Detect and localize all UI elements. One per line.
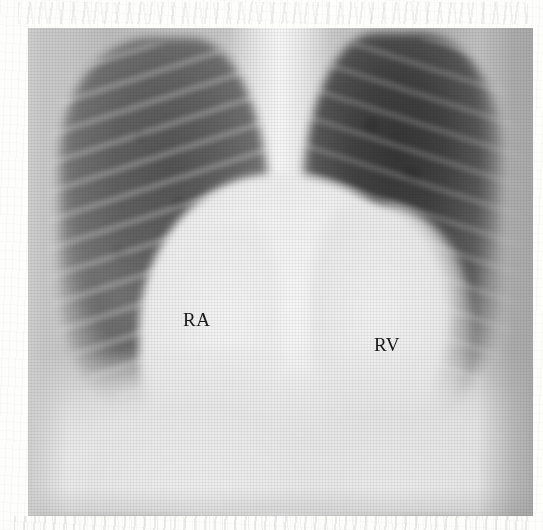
annotation-label-ra: RA <box>183 310 210 329</box>
chest-xray-image: RA RV <box>28 28 533 516</box>
scan-artifact-bottom <box>14 516 532 530</box>
diaphragm-region <box>28 350 533 516</box>
scan-artifact-top <box>18 2 528 24</box>
radiograph-page: RA RV <box>0 0 543 530</box>
annotation-label-rv: RV <box>374 335 400 354</box>
